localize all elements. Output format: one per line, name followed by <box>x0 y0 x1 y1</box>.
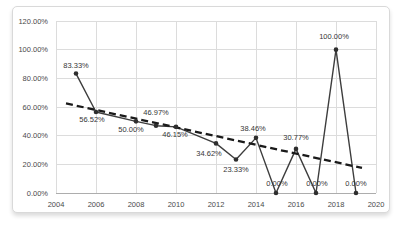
x-tick-label-2016: 2016 <box>288 200 305 209</box>
x-tick-label-2012: 2012 <box>208 200 225 209</box>
x-tick-label-2010: 2010 <box>168 200 185 209</box>
data-point-marker-2005[interactable] <box>74 71 79 76</box>
data-label-2016: 30.77% <box>283 133 309 142</box>
data-label-2014: 38.46% <box>240 124 266 133</box>
x-tick-label-2020: 2020 <box>368 200 385 209</box>
y-tick-label-40: 40.00% <box>23 131 49 140</box>
data-label-2015: 0.00% <box>266 179 288 188</box>
data-label-2008: 50.00% <box>118 125 144 134</box>
data-point-marker-2009[interactable] <box>154 123 159 128</box>
chart-canvas: 83.33%56.52%50.00%46.97%46.15%34.62%23.3… <box>0 0 405 227</box>
data-point-marker-2014[interactable] <box>254 136 259 141</box>
y-tick-label-120: 120.00% <box>18 17 48 26</box>
x-tick-label-2006: 2006 <box>88 200 105 209</box>
x-tick-label-2014: 2014 <box>248 200 265 209</box>
x-tick-label-2004: 2004 <box>48 200 65 209</box>
y-tick-label-60: 60.00% <box>23 103 49 112</box>
axis-ticks-group: 2004200620082010201220142016201820200.00… <box>18 17 384 210</box>
data-label-2019: 0.00% <box>345 179 367 188</box>
y-tick-label-0: 0.00% <box>27 189 49 198</box>
y-tick-label-80: 80.00% <box>23 74 49 83</box>
data-label-2009: 46.97% <box>143 108 169 117</box>
data-label-2012: 34.62% <box>196 149 222 158</box>
data-point-marker-2016[interactable] <box>294 147 299 152</box>
x-tick-label-2018: 2018 <box>328 200 345 209</box>
x-tick-label-2008: 2008 <box>128 200 145 209</box>
data-label-2005: 83.33% <box>63 61 89 70</box>
data-point-marker-2006[interactable] <box>94 110 99 115</box>
data-point-marker-2010[interactable] <box>174 125 179 130</box>
data-label-2013: 23.33% <box>223 165 249 174</box>
data-point-marker-2017[interactable] <box>314 191 319 196</box>
y-tick-label-20: 20.00% <box>23 160 49 169</box>
data-point-marker-2019[interactable] <box>354 191 359 196</box>
data-point-marker-2015[interactable] <box>274 191 279 196</box>
data-label-2018: 100.00% <box>319 32 349 41</box>
data-label-2017: 0.00% <box>306 179 328 188</box>
data-point-marker-2018[interactable] <box>334 47 339 52</box>
data-point-marker-2008[interactable] <box>134 119 139 124</box>
y-tick-label-100: 100.00% <box>18 45 48 54</box>
excel-chart-screenshot: 83.33%56.52%50.00%46.97%46.15%34.62%23.3… <box>0 0 405 227</box>
data-point-marker-2013[interactable] <box>234 157 239 162</box>
data-point-marker-2012[interactable] <box>214 141 219 146</box>
data-label-2006: 56.52% <box>79 115 105 124</box>
data-label-2010: 46.15% <box>162 130 188 139</box>
